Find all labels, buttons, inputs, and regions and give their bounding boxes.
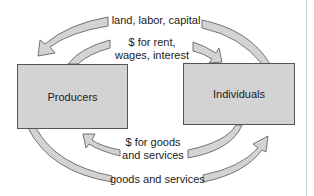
label-rent-wages-interest: $ for rent, wages, interest <box>112 36 192 62</box>
page-divider <box>306 0 307 196</box>
label-land-labor-capital: land, labor, capital <box>111 14 201 27</box>
label-goods-spending: $ for goods and services <box>118 136 188 162</box>
label-spending-line2: and services <box>118 149 188 162</box>
label-spending-line1: $ for goods <box>118 136 188 149</box>
individuals-label: Individuals <box>213 88 265 100</box>
label-goods-and-services: goods and services <box>110 173 204 186</box>
producers-box: Producers <box>17 64 128 129</box>
individuals-box: Individuals <box>183 63 295 125</box>
producers-label: Producers <box>47 91 97 103</box>
label-rent-line1: $ for rent, <box>112 36 192 49</box>
label-rent-line2: wages, interest <box>112 49 192 62</box>
